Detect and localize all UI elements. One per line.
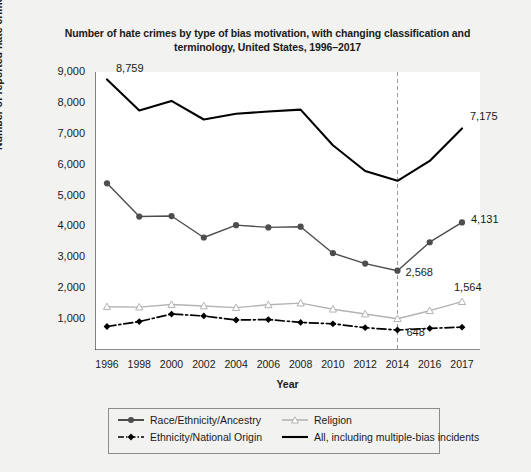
y-tick-label: 1,000 <box>39 312 85 324</box>
data-label: 1,564 <box>454 281 482 293</box>
plot-svg <box>95 72 480 350</box>
series-marker <box>330 320 337 327</box>
legend-key-icon <box>117 414 145 426</box>
series-marker <box>200 313 207 320</box>
y-tick-label: 7,000 <box>39 127 85 139</box>
series-marker <box>104 323 111 330</box>
series-marker <box>233 222 239 228</box>
series-marker <box>394 268 400 274</box>
plot-area <box>95 72 480 350</box>
chart-figure: Number of hate crimes by type of bias mo… <box>0 0 531 472</box>
y-axis-title: Number of reported hate crimes <box>0 0 4 150</box>
data-label: 7,175 <box>470 110 498 122</box>
y-tick-label: 5,000 <box>39 189 85 201</box>
chart-legend: Race/Ethnicity/AncestryReligionEthnicity… <box>108 408 440 454</box>
data-label: 648 <box>406 326 424 338</box>
series-marker <box>136 213 142 219</box>
series-marker <box>265 316 272 323</box>
series-marker <box>459 219 465 225</box>
legend-label: All, including multiple-bias incidents <box>314 431 479 443</box>
series-marker <box>362 324 369 331</box>
legend-key-icon <box>281 431 309 443</box>
data-label: 4,131 <box>471 213 499 225</box>
series-line <box>107 79 462 180</box>
series-marker <box>298 224 304 230</box>
y-tick-label: 9,000 <box>39 65 85 77</box>
legend-item[interactable]: All, including multiple-bias incidents <box>281 431 479 443</box>
y-tick-label: 8,000 <box>39 96 85 108</box>
series-marker <box>265 224 271 230</box>
series-marker <box>330 250 336 256</box>
series-marker <box>168 311 175 318</box>
series-marker <box>362 261 368 267</box>
legend-item[interactable]: Ethnicity/National Origin <box>117 431 262 443</box>
x-axis-title: Year <box>95 378 480 390</box>
y-tick-label: 4,000 <box>39 219 85 231</box>
legend-label: Race/Ethnicity/Ancestry <box>150 414 261 426</box>
series-marker <box>104 180 110 186</box>
y-tick-label: 3,000 <box>39 250 85 262</box>
chart-title: Number of hate crimes by type of bias mo… <box>60 26 475 54</box>
legend-label: Religion <box>314 414 352 426</box>
y-tick-label: 2,000 <box>39 281 85 293</box>
legend-key-icon <box>281 414 309 426</box>
legend-key-icon <box>117 431 145 443</box>
series-marker <box>297 319 304 326</box>
series-marker <box>458 298 465 304</box>
data-label: 2,568 <box>405 266 433 278</box>
series-marker <box>459 324 466 331</box>
legend-item[interactable]: Religion <box>281 414 352 426</box>
x-tick-label: 2017 <box>442 358 482 370</box>
series-line <box>107 183 462 270</box>
legend-label: Ethnicity/National Origin <box>150 431 262 443</box>
legend-item[interactable]: Race/Ethnicity/Ancestry <box>117 414 261 426</box>
series-marker <box>168 213 174 219</box>
series-marker <box>233 317 240 324</box>
series-marker <box>394 327 401 334</box>
series-marker <box>136 318 143 325</box>
series-marker <box>426 325 433 332</box>
series-marker <box>427 239 433 245</box>
y-tick-label: 6,000 <box>39 158 85 170</box>
data-label: 8,759 <box>116 62 144 74</box>
series-marker <box>201 234 207 240</box>
